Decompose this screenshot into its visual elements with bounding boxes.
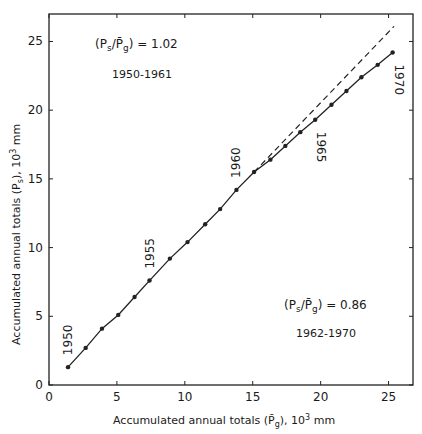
x-axis-label: Accumulated annual totals (P̄g), 103 mm bbox=[113, 413, 335, 429]
data-point bbox=[283, 144, 287, 148]
data-point bbox=[83, 346, 87, 350]
y-tick-label: 5 bbox=[35, 309, 43, 323]
y-tick-label: 10 bbox=[28, 241, 43, 255]
ratio-annotation-1962-1970: (Ps/P̄g) = 0.86 1962-1970 bbox=[284, 298, 367, 340]
data-series bbox=[66, 50, 395, 369]
ratio-text: (Ps/P̄g) = 1.02 bbox=[95, 37, 178, 53]
data-point bbox=[329, 102, 333, 106]
x-tick-label: 0 bbox=[45, 390, 53, 404]
y-tick-label: 25 bbox=[28, 34, 43, 48]
data-point bbox=[359, 75, 363, 79]
data-point bbox=[234, 188, 238, 192]
y-axis-label: Accumulated annual totals (Ps), 103 mm bbox=[9, 124, 25, 345]
x-tick-label: 15 bbox=[245, 390, 260, 404]
data-point bbox=[100, 326, 104, 330]
ratio-annotation-1950-1961: (Ps/P̄g) = 1.02 1950-1961 bbox=[95, 37, 178, 81]
y-tick-label: 15 bbox=[28, 172, 43, 186]
data-point bbox=[390, 50, 394, 54]
data-point bbox=[147, 278, 151, 282]
period-text: 1950-1961 bbox=[112, 68, 172, 81]
data-point bbox=[344, 89, 348, 93]
data-point bbox=[375, 63, 379, 67]
ratio-text: (Ps/P̄g) = 0.86 bbox=[284, 298, 367, 314]
double-mass-line bbox=[68, 52, 393, 367]
year-label-1970: 1970 bbox=[392, 64, 406, 95]
year-label-1950: 1950 bbox=[61, 325, 75, 356]
y-tick-label: 20 bbox=[28, 103, 43, 117]
x-tick-label: 10 bbox=[177, 390, 192, 404]
data-point bbox=[132, 295, 136, 299]
year-label-1960: 1960 bbox=[229, 147, 243, 178]
data-point bbox=[268, 157, 272, 161]
data-point bbox=[203, 222, 207, 226]
data-point bbox=[298, 130, 302, 134]
data-point bbox=[168, 256, 172, 260]
data-point bbox=[218, 207, 222, 211]
x-tick-label: 25 bbox=[381, 390, 396, 404]
year-label-1965: 1965 bbox=[314, 132, 328, 163]
data-point bbox=[252, 170, 256, 174]
data-point bbox=[66, 365, 70, 369]
data-point bbox=[185, 240, 189, 244]
data-point bbox=[116, 313, 120, 317]
year-label-1955: 1955 bbox=[143, 238, 157, 269]
x-tick-label: 20 bbox=[313, 390, 328, 404]
period-text: 1962-1970 bbox=[296, 327, 356, 340]
y-tick-label: 0 bbox=[35, 378, 43, 392]
data-point bbox=[313, 118, 317, 122]
double-mass-chart: 05101520250510152025 1950195519601965197… bbox=[0, 0, 422, 434]
x-tick-label: 5 bbox=[113, 390, 121, 404]
